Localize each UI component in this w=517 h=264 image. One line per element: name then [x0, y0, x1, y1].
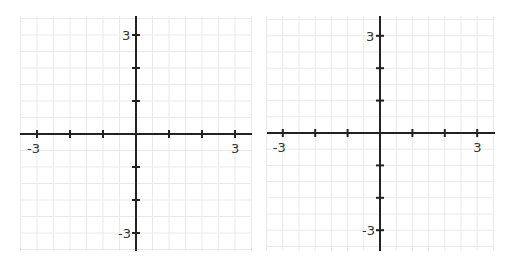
right-y-min-label: -3 — [362, 223, 375, 238]
left-y-min-label: -3 — [118, 226, 131, 241]
right-x-min-label: -3 — [273, 140, 286, 155]
right-coordinate-plane: -3 3 3 -3 — [267, 16, 495, 251]
right-x-max-label: 3 — [473, 140, 481, 155]
left-coordinate-plane: -3 3 3 -3 — [20, 16, 252, 251]
left-x-min-label: -3 — [27, 141, 40, 156]
left-y-max-label: 3 — [122, 28, 130, 43]
coordinate-planes-canvas: -3 3 3 -3 -3 3 3 -3 — [0, 0, 517, 264]
left-x-max-label: 3 — [231, 141, 239, 156]
right-y-max-label: 3 — [366, 29, 374, 44]
